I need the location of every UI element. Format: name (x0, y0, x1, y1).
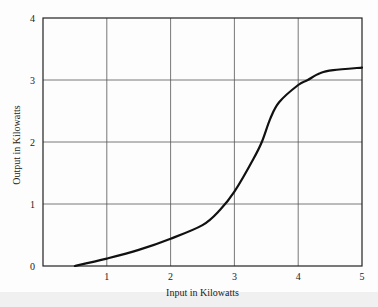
y-tick-label: 0 (30, 261, 35, 272)
x-axis-label: Input in Kilowatts (166, 287, 239, 298)
y-tick-label: 2 (30, 137, 35, 148)
x-tick-label: 4 (296, 271, 301, 282)
x-tick-label: 3 (232, 271, 237, 282)
grid (43, 18, 362, 266)
x-tick-label: 2 (168, 271, 173, 282)
y-axis-label: Output in Kilowatts (11, 105, 22, 185)
x-tick-label: 1 (104, 271, 109, 282)
chart: 12345 01234 Input in Kilowatts Output in… (0, 0, 378, 307)
x-tick-label: 5 (360, 271, 365, 282)
y-tick-label: 4 (30, 13, 35, 24)
series-line (75, 68, 362, 266)
y-tick-label: 1 (30, 199, 35, 210)
y-tick-label: 3 (30, 75, 35, 86)
y-tick-labels: 01234 (30, 13, 35, 272)
x-tick-labels: 12345 (104, 271, 364, 282)
